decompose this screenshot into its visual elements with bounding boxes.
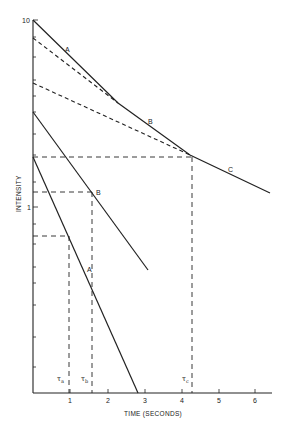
y-tick-1: 1 xyxy=(27,204,31,211)
label-curve-c: C xyxy=(228,166,233,173)
tau-a-label: τa xyxy=(57,375,64,384)
tau-b-label: τb xyxy=(81,375,88,384)
y-ticks xyxy=(33,20,38,367)
x-tick-5: 5 xyxy=(217,397,221,404)
decay-chart: 10 1 1 2 3 4 5 6 TIME (SECONDS) INTENSIT… xyxy=(0,0,291,430)
x-tick-2: 2 xyxy=(106,397,110,404)
label-component-a: A xyxy=(87,266,92,273)
svg-text:τc: τc xyxy=(182,375,189,384)
x-tick-1: 1 xyxy=(68,397,72,404)
x-axis-title: TIME (SECONDS) xyxy=(124,410,182,418)
x-ticks xyxy=(70,389,255,393)
y-axis-title: INTENSITY xyxy=(15,175,22,212)
guide-lines xyxy=(33,157,192,393)
svg-text:τb: τb xyxy=(81,375,88,384)
label-curve-a: A xyxy=(65,46,70,53)
resolved-components xyxy=(33,112,148,393)
tau-c-label: τc xyxy=(182,375,189,384)
component-b-line xyxy=(33,112,148,270)
x-tick-4: 4 xyxy=(180,397,184,404)
extrapolation-line-b xyxy=(33,38,118,103)
label-component-b: B xyxy=(96,189,101,196)
svg-text:τa: τa xyxy=(57,375,64,384)
y-tick-10: 10 xyxy=(22,17,30,24)
label-curve-b: B xyxy=(148,118,153,125)
x-tick-3: 3 xyxy=(143,397,147,404)
x-tick-6: 6 xyxy=(253,397,257,404)
component-a-line xyxy=(33,157,138,393)
